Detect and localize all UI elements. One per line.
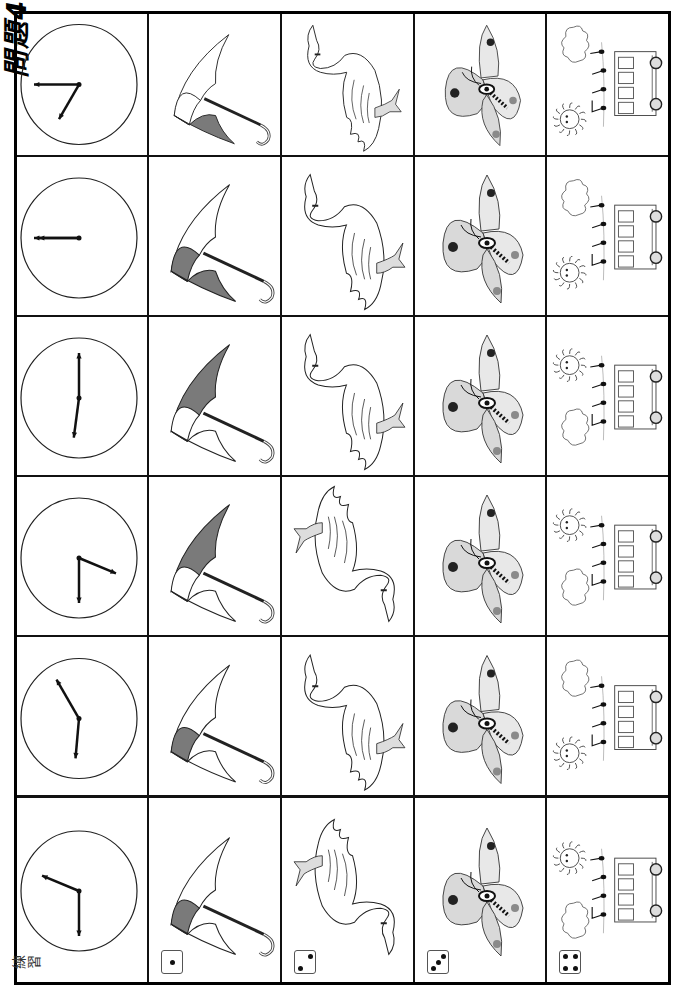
bus-icon <box>615 525 662 589</box>
cell-swan-row-6[interactable] <box>284 800 415 982</box>
sun-notes-bus-scene-icon <box>549 479 671 637</box>
butterfly-icon <box>417 14 547 155</box>
cell-swan-row-1[interactable] <box>284 14 415 155</box>
cell-umbrella-row-6[interactable] <box>151 800 282 982</box>
clock-icon <box>17 479 147 637</box>
umbrella-icon <box>151 479 282 637</box>
die-1-icon <box>161 950 183 974</box>
butterfly-icon <box>417 639 547 798</box>
cell-butterfly-row-1[interactable] <box>417 14 547 155</box>
cell-clock-row-4[interactable] <box>17 479 147 637</box>
swan-icon <box>284 14 415 155</box>
cell-umbrella-row-4[interactable] <box>151 479 282 637</box>
bus-icon <box>615 686 662 750</box>
cloud-icon <box>562 660 589 696</box>
sun-notes-bus-scene-icon <box>549 159 671 317</box>
umbrella-icon <box>151 159 282 317</box>
swan-icon <box>284 479 415 637</box>
die-2-icon <box>294 950 316 974</box>
worksheet-grid: 練習 <box>14 11 671 985</box>
cloud-icon <box>562 569 589 605</box>
swan-icon <box>284 159 415 317</box>
umbrella-icon <box>151 639 282 798</box>
bus-icon <box>615 205 662 269</box>
sun-notes-bus-scene-icon <box>549 639 671 798</box>
cell-scene-row-6[interactable] <box>549 800 671 982</box>
cloud-icon <box>562 902 589 938</box>
sun-icon <box>553 103 586 136</box>
bus-icon <box>615 365 662 429</box>
cell-scene-row-1[interactable] <box>549 14 671 155</box>
cell-umbrella-row-1[interactable] <box>151 14 282 155</box>
clock-icon <box>17 639 147 798</box>
music-notes-icon <box>602 516 605 600</box>
column-divider <box>147 14 149 982</box>
cell-scene-row-3[interactable] <box>549 319 671 477</box>
butterfly-icon <box>417 479 547 637</box>
music-notes-icon <box>602 196 605 280</box>
cell-umbrella-row-5[interactable] <box>151 639 282 798</box>
cloud-icon <box>562 409 589 445</box>
practice-label: 練習 <box>19 946 35 978</box>
cloud-icon <box>562 180 589 216</box>
die-3-icon <box>427 950 449 974</box>
music-notes-icon <box>602 849 605 933</box>
cloud-icon <box>562 26 589 62</box>
swan-icon <box>284 639 415 798</box>
clock-icon <box>17 319 147 477</box>
die-4-icon <box>559 950 581 974</box>
bus-icon <box>615 858 662 922</box>
music-notes-icon <box>602 676 605 760</box>
cell-butterfly-row-4[interactable] <box>417 479 547 637</box>
cell-umbrella-row-3[interactable] <box>151 319 282 477</box>
sun-icon <box>553 737 586 770</box>
butterfly-icon <box>417 159 547 317</box>
cell-clock-row-1[interactable] <box>17 14 147 155</box>
cell-butterfly-row-6[interactable] <box>417 800 547 982</box>
sun-notes-bus-scene-icon <box>549 319 671 477</box>
music-notes-icon <box>602 42 605 126</box>
cell-swan-row-4[interactable] <box>284 479 415 637</box>
cell-scene-row-2[interactable] <box>549 159 671 317</box>
sun-icon <box>553 256 586 289</box>
sun-icon <box>553 349 586 382</box>
cell-clock-row-5[interactable] <box>17 639 147 798</box>
swan-icon <box>284 319 415 477</box>
cell-butterfly-row-2[interactable] <box>417 159 547 317</box>
cell-umbrella-row-2[interactable] <box>151 159 282 317</box>
cell-clock-row-2[interactable] <box>17 159 147 317</box>
sun-icon <box>553 509 586 542</box>
cell-swan-row-5[interactable] <box>284 639 415 798</box>
music-notes-icon <box>602 356 605 440</box>
clock-icon <box>17 14 147 155</box>
bus-icon <box>615 52 662 116</box>
butterfly-icon <box>417 319 547 477</box>
cell-butterfly-row-3[interactable] <box>417 319 547 477</box>
cell-butterfly-row-5[interactable] <box>417 639 547 798</box>
cell-swan-row-3[interactable] <box>284 319 415 477</box>
cell-clock-row-3[interactable] <box>17 319 147 477</box>
umbrella-icon <box>151 14 282 155</box>
sun-notes-bus-scene-icon <box>549 14 671 155</box>
cell-swan-row-2[interactable] <box>284 159 415 317</box>
umbrella-icon <box>151 319 282 477</box>
cell-scene-row-5[interactable] <box>549 639 671 798</box>
clock-icon <box>17 159 147 317</box>
row-divider <box>17 155 668 157</box>
cell-scene-row-4[interactable] <box>549 479 671 637</box>
practice-label-text: 練習 <box>12 953 42 969</box>
sun-icon <box>553 842 586 875</box>
